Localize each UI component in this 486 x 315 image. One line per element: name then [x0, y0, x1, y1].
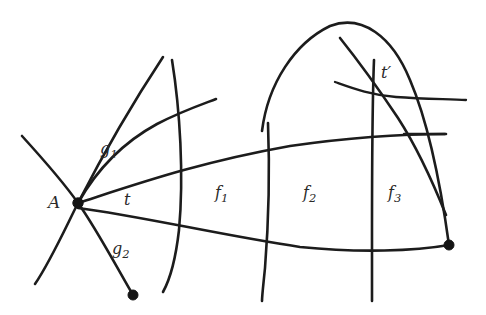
figure-canvas: A g1 g2 t f1 f2 f3 t′: [0, 0, 486, 315]
label-region-f1: f1: [215, 185, 228, 205]
label-region-g1-subscript: 1: [110, 147, 117, 161]
label-region-g2: g2: [112, 241, 130, 261]
label-region-f3: f3: [388, 185, 401, 205]
vertex-dot-A: [73, 198, 83, 208]
label-region-f2-subscript: 2: [309, 191, 316, 205]
label-region-f2: f2: [303, 185, 316, 205]
vertex-dot-bottom: [128, 290, 138, 300]
label-region-g2-base: g: [112, 239, 122, 258]
label-vertex-A: A: [48, 194, 60, 211]
label-region-f1-subscript: 1: [221, 191, 228, 205]
label-region-g2-subscript: 2: [122, 247, 129, 261]
label-region-g1: g1: [100, 141, 118, 161]
curve-diagram-svg: [0, 0, 486, 315]
figure-background: [0, 0, 486, 315]
label-region-t: t: [124, 192, 130, 208]
vertex-dot-right: [444, 240, 454, 250]
label-region-g1-base: g: [100, 139, 110, 158]
label-region-f3-subscript: 3: [394, 191, 401, 205]
label-region-t-prime: t′: [381, 65, 391, 81]
